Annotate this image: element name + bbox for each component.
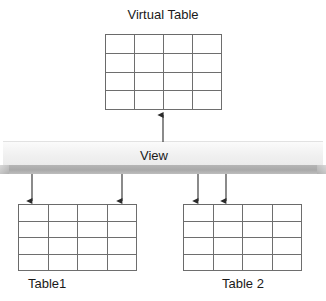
table-cell: [184, 255, 214, 272]
table-cell: [19, 205, 49, 222]
virtual-table-title: Virtual Table: [0, 8, 326, 21]
table-cell: [243, 238, 273, 255]
table-cell: [135, 73, 164, 92]
view-bar-label: View: [140, 149, 168, 162]
table-cell: [273, 255, 303, 272]
table-cell: [135, 35, 164, 54]
table-cell: [106, 91, 135, 110]
table-cell: [214, 238, 244, 255]
table-cell: [135, 54, 164, 73]
table-cell: [108, 205, 138, 222]
table-cell: [193, 73, 222, 92]
table-cell: [243, 222, 273, 239]
table-cell: [164, 35, 193, 54]
table2-grid: [183, 204, 302, 271]
table-cell: [214, 222, 244, 239]
table-cell: [106, 54, 135, 73]
diagram-canvas: Virtual Table View: [0, 0, 326, 301]
table-cell: [273, 222, 303, 239]
table-cell: [106, 35, 135, 54]
table-cell: [164, 91, 193, 110]
table-cell: [108, 238, 138, 255]
table-cell: [78, 238, 108, 255]
table-cell: [19, 222, 49, 239]
table-cell: [243, 255, 273, 272]
table-cell: [19, 255, 49, 272]
table-cell: [193, 35, 222, 54]
table-cell: [78, 255, 108, 272]
table-cell: [214, 255, 244, 272]
table-cell: [78, 205, 108, 222]
table-cell: [106, 73, 135, 92]
table-cell: [193, 54, 222, 73]
table-cell: [135, 91, 164, 110]
table-cell: [214, 205, 244, 222]
table-cell: [184, 238, 214, 255]
table-cell: [273, 238, 303, 255]
table-cell: [108, 255, 138, 272]
table-cell: [78, 222, 108, 239]
table-cell: [164, 54, 193, 73]
virtual-table-grid: [105, 34, 222, 110]
table2-label: Table 2: [222, 277, 264, 290]
table-cell: [49, 238, 79, 255]
table-cell: [108, 222, 138, 239]
table-cell: [243, 205, 273, 222]
view-bar-left-bevel: [0, 165, 9, 174]
table-cell: [49, 255, 79, 272]
table-cell: [49, 205, 79, 222]
table-cell: [184, 222, 214, 239]
table1-grid: [18, 204, 137, 271]
table-cell: [193, 91, 222, 110]
table-cell: [49, 222, 79, 239]
table-cell: [164, 73, 193, 92]
view-bar-right-bevel: [317, 165, 326, 174]
table-cell: [273, 205, 303, 222]
table-cell: [19, 238, 49, 255]
view-bar-front-face: [0, 165, 326, 174]
table1-label: Table1: [28, 277, 66, 290]
table-cell: [184, 205, 214, 222]
